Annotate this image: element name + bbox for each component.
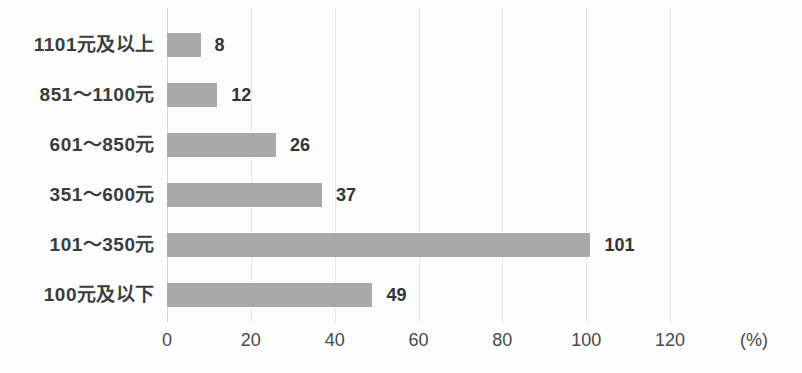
x-tick-120: 120 — [655, 330, 685, 351]
bar — [167, 233, 590, 257]
bar-value-label: 37 — [336, 183, 356, 207]
bar — [167, 33, 201, 57]
bar — [167, 283, 372, 307]
bar — [167, 133, 276, 157]
bar-row: 1101元及以上8 — [167, 20, 712, 70]
bar-value-label: 12 — [231, 83, 251, 107]
bar-value-label: 26 — [290, 133, 310, 157]
category-label: 1101元及以上 — [34, 20, 155, 70]
bar-row: 601～850元26 — [167, 120, 712, 170]
bar-value-label: 101 — [604, 233, 634, 257]
bar-value-label: 49 — [386, 283, 406, 307]
plot-area: 1101元及以上8851～1100元12601～850元26351～600元37… — [167, 8, 712, 323]
bar-value-label: 8 — [215, 33, 225, 57]
x-tick-60: 60 — [409, 330, 429, 351]
x-tick-40: 40 — [325, 330, 345, 351]
bar — [167, 183, 322, 207]
x-axis-tick-labels: 020406080100120 — [167, 330, 712, 356]
bar-row: 351～600元37 — [167, 170, 712, 220]
category-label: 601～850元 — [50, 120, 155, 170]
x-tick-100: 100 — [571, 330, 601, 351]
category-label: 101～350元 — [50, 220, 155, 270]
category-label: 100元及以下 — [44, 270, 155, 320]
category-label: 851～1100元 — [40, 70, 155, 120]
bar-row: 100元及以下49 — [167, 270, 712, 320]
x-tick-20: 20 — [241, 330, 261, 351]
x-axis-unit-label: (%) — [740, 330, 768, 351]
category-label: 351～600元 — [50, 170, 155, 220]
x-tick-80: 80 — [492, 330, 512, 351]
bar-chart: 1101元及以上8851～1100元12601～850元26351～600元37… — [0, 0, 802, 373]
bar — [167, 83, 217, 107]
bar-row: 101～350元101 — [167, 220, 712, 270]
x-tick-0: 0 — [162, 330, 172, 351]
bar-row: 851～1100元12 — [167, 70, 712, 120]
